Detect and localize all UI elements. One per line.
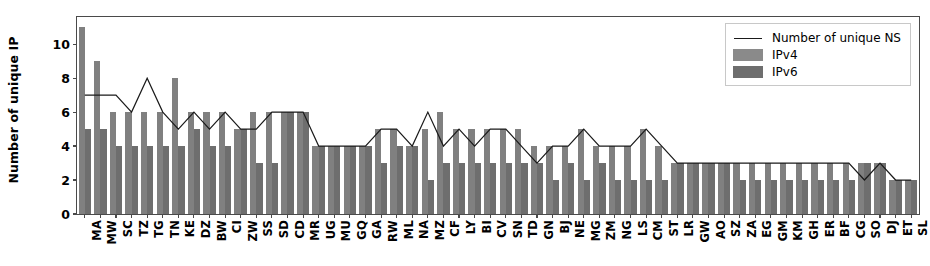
bar-ipv6: [631, 180, 637, 214]
legend-label-ns: Number of unique NS: [772, 31, 901, 45]
x-tick-mark: [724, 214, 725, 218]
x-tick-label: GQ: [355, 220, 369, 240]
x-tick-label: BJ: [558, 220, 572, 233]
bar-group: [311, 17, 327, 214]
bar-group: [280, 17, 296, 214]
bar-group: [93, 17, 109, 214]
bar-group: [264, 17, 280, 214]
ipv4-swatch-icon: [733, 49, 763, 61]
x-tick-label: SL: [916, 220, 930, 236]
bar-ipv6: [693, 163, 699, 214]
bar-ipv6: [880, 163, 886, 214]
x-tick-label: LY: [464, 220, 478, 234]
x-tick-label: EG: [760, 220, 774, 238]
x-tick-mark: [505, 214, 506, 218]
x-tick-mark: [147, 214, 148, 218]
x-tick-label: SZ: [729, 220, 743, 237]
bar-group: [592, 17, 608, 214]
x-tick-label: CF: [448, 220, 462, 237]
x-tick-label: NE: [573, 220, 587, 238]
bar-group: [420, 17, 436, 214]
bar-ipv6: [116, 146, 122, 214]
bar-group: [623, 17, 639, 214]
bar-group: [171, 17, 187, 214]
x-tick-label: MG: [589, 220, 603, 241]
x-tick-mark: [661, 214, 662, 218]
x-tick-mark: [692, 214, 693, 218]
bar-ipv6: [412, 146, 418, 214]
bar-group: [560, 17, 576, 214]
x-tick-mark: [630, 214, 631, 218]
x-tick-mark: [318, 214, 319, 218]
bar-ipv6: [225, 146, 231, 214]
x-tick-mark: [365, 214, 366, 218]
bar-ipv6: [319, 146, 325, 214]
bar-group: [498, 17, 514, 214]
y-tick-label: 6: [36, 105, 77, 120]
bar-group: [654, 17, 670, 214]
x-tick-mark: [115, 214, 116, 218]
y-tick-label: 10: [36, 37, 77, 52]
bar-ipv6: [740, 180, 746, 214]
bar-ipv6: [849, 180, 855, 214]
x-tick-label: NG: [620, 220, 634, 239]
x-tick-label: CV: [495, 220, 509, 238]
x-tick-mark: [864, 214, 865, 218]
bar-ipv6: [163, 146, 169, 214]
x-tick-mark: [552, 214, 553, 218]
x-tick-label: GA: [370, 220, 384, 239]
bar-ipv6: [755, 180, 761, 214]
bar-group: [155, 17, 171, 214]
bar-ipv6: [864, 163, 870, 214]
x-tick-label: LR: [682, 220, 696, 237]
x-tick-label: CM: [651, 220, 665, 240]
x-tick-mark: [396, 214, 397, 218]
bar-ipv6: [584, 180, 590, 214]
x-tick-label: DJ: [885, 220, 899, 234]
x-tick-label: SD: [277, 220, 291, 238]
ipv6-swatch-icon: [733, 66, 763, 78]
bar-group: [389, 17, 405, 214]
bar-ipv6: [911, 180, 917, 214]
y-tick-mark: [73, 44, 77, 45]
x-tick-label: CI: [230, 220, 244, 233]
bar-group: [202, 17, 218, 214]
bar-ipv6: [194, 129, 200, 214]
x-tick-mark: [349, 214, 350, 218]
x-tick-label: SO: [869, 220, 883, 238]
bar-ipv6: [646, 180, 652, 214]
x-tick-mark: [599, 214, 600, 218]
x-tick-mark: [193, 214, 194, 218]
x-tick-label: KM: [791, 220, 805, 241]
x-tick-label: SN: [511, 220, 525, 238]
x-tick-label: GN: [542, 220, 556, 239]
legend: Number of unique NS IPv4 IPv6: [725, 23, 911, 86]
x-tick-label: TN: [168, 220, 182, 238]
x-tick-mark: [490, 214, 491, 218]
x-tick-mark: [474, 214, 475, 218]
bar-group: [576, 17, 592, 214]
x-tick-mark: [833, 214, 834, 218]
x-tick-mark: [755, 214, 756, 218]
bar-ipv6: [381, 163, 387, 214]
bar-group: [77, 17, 93, 214]
bar-ipv6: [256, 163, 262, 214]
x-tick-mark: [240, 214, 241, 218]
x-tick-mark: [225, 214, 226, 218]
bar-group: [358, 17, 374, 214]
x-tick-mark: [911, 214, 912, 218]
bar-ipv6: [241, 129, 247, 214]
plot-area: 0246810 MAMWSCTZTGTNKEDZBWCIZWSSSDCDMRUG…: [76, 16, 920, 215]
x-tick-mark: [802, 214, 803, 218]
bar-group: [529, 17, 545, 214]
bar-ipv6: [350, 146, 356, 214]
bar-ipv6: [802, 180, 808, 214]
bar-ipv6: [786, 180, 792, 214]
bar-ipv6: [818, 180, 824, 214]
x-tick-label: TD: [526, 220, 540, 238]
x-tick-label: GH: [807, 220, 821, 239]
x-tick-label: MZ: [433, 220, 447, 240]
y-tick-label: 2: [36, 173, 77, 188]
bar-ipv6: [521, 163, 527, 214]
bar-ipv6: [724, 163, 730, 214]
